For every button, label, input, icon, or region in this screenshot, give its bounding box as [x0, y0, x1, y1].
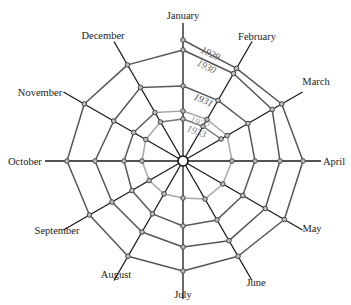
data-point-1929-march	[279, 102, 284, 107]
data-point-1932-august	[162, 192, 167, 197]
data-point-1929-july	[181, 269, 186, 274]
month-label-january: January	[167, 10, 200, 21]
data-point-1932-november	[143, 137, 148, 142]
data-point-1929-december	[125, 63, 130, 68]
month-label-november: November	[18, 87, 63, 98]
month-labels: JanuaryFebruaryMarchAprilMayJuneJulyAugu…	[8, 10, 345, 300]
data-point-1931-september	[130, 188, 135, 193]
data-point-1930-june	[227, 238, 232, 243]
month-label-april: April	[323, 156, 345, 167]
data-point-1930-december	[138, 85, 143, 90]
month-label-october: October	[8, 156, 42, 167]
data-point-1929-january	[181, 38, 186, 43]
data-point-1929-february	[234, 66, 239, 71]
data-point-1931-april	[253, 159, 258, 164]
month-label-august: August	[101, 269, 131, 280]
month-label-july: July	[174, 289, 192, 300]
data-point-1932-june	[203, 197, 208, 202]
data-point-1930-january	[181, 48, 186, 53]
data-point-1932-april	[230, 159, 235, 164]
data-point-1932-january	[181, 109, 186, 114]
year-label-1931: 1931	[192, 91, 215, 109]
data-point-1931-december	[153, 110, 158, 115]
data-point-1932-march	[225, 133, 230, 138]
data-point-1929-november	[82, 102, 87, 107]
data-point-1931-november	[131, 130, 136, 135]
data-point-1932-october	[140, 159, 145, 164]
data-point-1930-april	[278, 159, 283, 164]
data-point-1932-september	[147, 178, 152, 183]
data-point-1932-may	[221, 182, 226, 187]
data-point-1929-april	[301, 159, 306, 164]
axis-november	[63, 92, 183, 161]
data-point-1929-august	[126, 254, 131, 259]
data-point-1933-march	[219, 137, 224, 142]
data-point-1931-june	[215, 218, 220, 223]
data-point-1931-february	[216, 98, 221, 103]
data-point-1929-september	[87, 213, 92, 218]
data-point-1931-march	[246, 121, 251, 126]
data-point-1932-july	[181, 196, 186, 201]
data-point-1930-august	[140, 230, 145, 235]
data-point-1931-july	[181, 224, 186, 229]
data-point-1930-march	[270, 107, 275, 112]
data-point-1931-august	[150, 212, 155, 217]
data-point-1930-july	[181, 245, 186, 250]
month-label-february: February	[238, 31, 277, 42]
data-point-1930-november	[111, 119, 116, 124]
data-point-1929-may	[282, 217, 287, 222]
month-label-september: September	[35, 225, 80, 236]
year-spiral-lines	[67, 40, 303, 271]
data-point-1929-june	[236, 254, 241, 259]
center-hub	[178, 156, 188, 166]
data-point-1930-february	[231, 71, 236, 76]
data-point-1931-may	[240, 193, 245, 198]
month-label-march: March	[302, 76, 330, 87]
data-point-1930-september	[110, 200, 115, 205]
data-point-1931-january	[181, 84, 186, 89]
year-labels: 19291930193119321933	[185, 44, 222, 140]
month-label-december: December	[81, 30, 125, 41]
data-point-1930-may	[263, 206, 268, 211]
month-label-may: May	[302, 223, 322, 234]
spiral-1931	[124, 86, 255, 226]
spiral-1929	[67, 40, 303, 271]
data-point-1933-january	[181, 117, 186, 122]
data-points	[65, 38, 306, 274]
data-point-1932-december	[158, 120, 163, 125]
data-point-1930-october	[93, 159, 98, 164]
data-point-1931-october	[122, 159, 127, 164]
data-point-1929-october	[65, 159, 70, 164]
month-label-june: June	[246, 277, 266, 288]
spiral-radar-chart: JanuaryFebruaryMarchAprilMayJuneJulyAugu…	[0, 0, 351, 305]
